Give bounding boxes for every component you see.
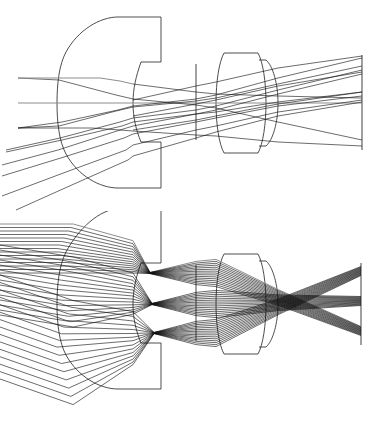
ray [6, 70, 362, 150]
ray-bundle-on-axis [18, 66, 362, 140]
ray-bundle-full-field [2, 92, 362, 210]
ray [18, 58, 362, 128]
ray-trace-figure [0, 0, 379, 422]
ray [2, 74, 362, 165]
ray [0, 259, 361, 333]
ray [0, 276, 361, 405]
ray [0, 275, 361, 397]
ray-bundle-upper-field [18, 78, 362, 146]
ray [2, 100, 362, 196]
ray [18, 128, 362, 146]
ray [133, 72, 362, 116]
ray-bundles-dense [0, 224, 361, 405]
panel-sparse-ray-trace [0, 0, 379, 211]
ray [0, 231, 361, 328]
ray-bundle-mid-field [2, 58, 362, 165]
panel-dense-ray-trace [0, 211, 379, 422]
ray [0, 272, 361, 363]
